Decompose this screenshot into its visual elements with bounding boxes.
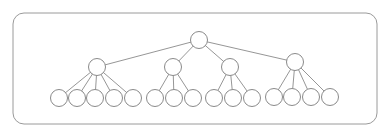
leaf-node-n2-2	[166, 90, 183, 107]
tree-nodes	[51, 32, 339, 107]
tree-diagram	[0, 0, 390, 130]
leaf-node-n3-1	[206, 90, 223, 107]
leaf-node-n4-3	[303, 89, 320, 106]
diagram-frame	[13, 13, 377, 124]
leaf-node-n1-2	[69, 90, 86, 107]
child-node-n4	[287, 54, 304, 71]
child-node-n1	[89, 59, 106, 76]
leaf-node-n3-3	[244, 90, 261, 107]
leaf-node-n4-4	[322, 89, 339, 106]
leaf-node-n2-3	[185, 90, 202, 107]
child-node-n2	[165, 59, 182, 76]
leaf-node-n4-2	[284, 89, 301, 106]
leaf-node-n4-1	[266, 89, 283, 106]
leaf-node-n1-1	[51, 90, 68, 107]
leaf-node-n1-5	[125, 90, 142, 107]
child-node-n3	[222, 59, 239, 76]
leaf-node-n1-3	[87, 90, 104, 107]
leaf-node-n1-4	[106, 90, 123, 107]
edge-root-n4	[199, 40, 295, 62]
edge-root-n1	[97, 40, 199, 67]
leaf-node-n3-2	[225, 90, 242, 107]
root-node	[191, 32, 208, 49]
tree-diagram-svg	[0, 0, 390, 130]
leaf-node-n2-1	[147, 90, 164, 107]
